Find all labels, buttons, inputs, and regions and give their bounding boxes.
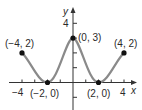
point-label-neg2-0: (−2, 0) — [30, 88, 59, 99]
y-axis-label: y — [62, 6, 69, 17]
y-ticks — [73, 23, 77, 97]
axes — [9, 7, 137, 110]
point-4-2 — [121, 50, 126, 55]
point-2-0 — [96, 80, 101, 85]
point-label-0-3: (0, 3) — [78, 32, 101, 43]
graph: y x 4 −4 4 (−4, 2) (−2, 0) (0, 3) (2, 0)… — [0, 0, 142, 110]
x-tick-label-neg4: −4 — [12, 87, 24, 98]
y-axis-arrow-icon — [71, 7, 76, 13]
point-label-2-0: (2, 0) — [87, 88, 110, 99]
point-0-3 — [70, 36, 75, 41]
point-label-neg4-2: (−4, 2) — [5, 38, 34, 49]
point-neg4-2 — [19, 50, 24, 55]
x-tick-label-4: 4 — [120, 87, 126, 98]
point-label-4-2: (4, 2) — [114, 38, 137, 49]
x-axis-label: x — [130, 85, 137, 96]
point-neg2-0 — [45, 80, 50, 85]
y-tick-label-4: 4 — [63, 18, 69, 29]
